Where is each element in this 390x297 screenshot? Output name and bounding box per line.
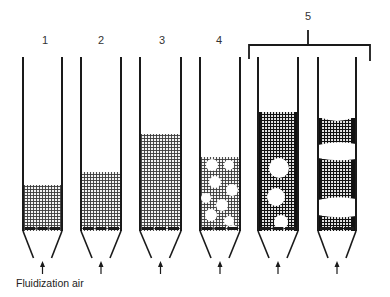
diagram-canvas: 1234 5 Fluidization air [0, 0, 390, 297]
regime-label-4: 4 [216, 34, 222, 46]
distributor-plate [215, 227, 226, 230]
air-flow-arrow-icon [218, 261, 223, 274]
group-5-label: 5 [305, 10, 311, 22]
inlet-cone-right [170, 231, 182, 258]
gas-bubble [209, 176, 221, 188]
air-flow-arrow-icon [276, 261, 281, 274]
fluidization-air-caption: Fluidization air [16, 277, 84, 289]
distributor-plate [260, 227, 271, 230]
gas-bubble [205, 209, 217, 221]
air-flow-arrow-icon [158, 261, 163, 274]
distributor-plate [96, 227, 107, 230]
distributor-plate [332, 227, 342, 230]
distributor-plate [227, 227, 238, 230]
distributor-plate [285, 227, 296, 230]
gas-bubble [224, 216, 234, 226]
distributor-plate [25, 227, 35, 230]
distributor-plate [344, 227, 354, 230]
regime-number-labels: 1234 [42, 34, 222, 46]
column-1 [23, 57, 62, 274]
group-5-bracket: 5 [249, 10, 370, 61]
column-3 [140, 57, 181, 274]
distributor-plate [83, 227, 94, 230]
gas-bubble [269, 158, 289, 178]
inlet-cone-left [258, 231, 269, 258]
distributor-plate [168, 227, 179, 230]
inlet-cone-right [229, 231, 240, 258]
distributor-plate [108, 227, 119, 230]
particle-bed [318, 116, 356, 231]
distributor-plate [202, 227, 213, 230]
gas-bubble [267, 188, 285, 206]
column-6 [318, 57, 356, 274]
particle-bed [200, 157, 240, 231]
inlet-cone-left [140, 231, 152, 258]
inlet-cone-left [23, 231, 34, 258]
gas-slug [318, 197, 356, 217]
particle-bed [23, 185, 62, 231]
inlet-cone-left [81, 231, 92, 258]
column-4 [200, 57, 240, 274]
fluidized-bed-columns [23, 57, 356, 274]
distributor-plate [37, 227, 47, 230]
regime-label-1: 1 [42, 34, 48, 46]
fluidization-regimes-diagram: 1234 5 Fluidization air [0, 0, 390, 297]
regime-label-2: 2 [98, 34, 104, 46]
inlet-cone-right [346, 231, 356, 258]
column-5 [258, 57, 298, 274]
particle-bed [140, 134, 181, 231]
distributor-plate [155, 227, 166, 230]
inlet-cone-right [287, 231, 298, 258]
column-2 [81, 57, 121, 274]
inlet-cone-left [318, 231, 328, 258]
gas-bubble [274, 215, 288, 229]
inlet-cone-right [52, 231, 63, 258]
gas-slug [318, 142, 356, 160]
distributor-plate [320, 227, 330, 230]
air-flow-arrow-icon [40, 261, 45, 274]
distributor-plate [50, 227, 60, 230]
regime-label-3: 3 [159, 34, 165, 46]
distributor-plate [273, 227, 284, 230]
gas-bubble [224, 160, 234, 170]
particle-bed [81, 172, 121, 231]
gas-bubble [226, 184, 238, 196]
inlet-cone-right [110, 231, 121, 258]
gas-bubble [216, 199, 228, 211]
gas-bubble [201, 193, 211, 203]
inlet-cone-left [200, 231, 211, 258]
particle-bed [258, 112, 298, 231]
air-flow-arrow-icon [99, 261, 104, 274]
gas-bubble [206, 159, 218, 171]
distributor-plate [142, 227, 153, 230]
air-flow-arrow-icon [335, 261, 340, 274]
